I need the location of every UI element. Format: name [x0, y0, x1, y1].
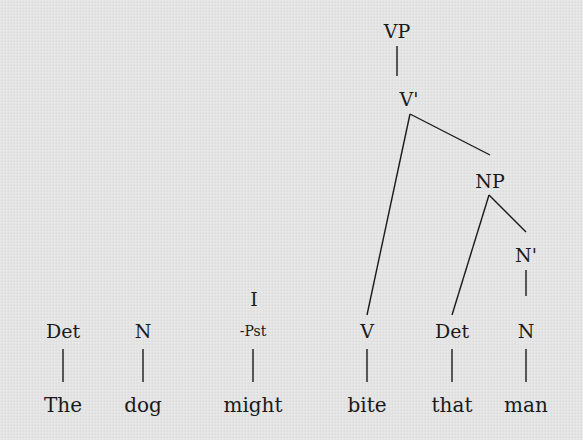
word-the: The: [44, 393, 82, 417]
branch-vbar-np: [410, 114, 490, 155]
branch-vbar-v: [367, 114, 410, 315]
node-np: NP: [475, 170, 505, 192]
word-that: that: [432, 393, 473, 417]
node-det-object: Det: [435, 320, 469, 342]
branch-np-det2: [452, 195, 489, 315]
node-i: I: [250, 288, 258, 310]
node-n-object: N: [518, 320, 535, 342]
word-bite: bite: [347, 393, 386, 417]
word-man: man: [504, 393, 548, 417]
node-n-bar: N': [515, 244, 537, 266]
word-might: might: [223, 393, 282, 417]
node-vp: VP: [383, 20, 411, 42]
word-dog: dog: [124, 393, 162, 417]
node-v-bar: V': [399, 88, 419, 110]
branch-np-nbar: [489, 195, 526, 232]
node-v: V: [359, 320, 374, 342]
node-n-subject: N: [135, 320, 152, 342]
node-i-feature: -Pst: [240, 323, 267, 339]
node-det-subject: Det: [46, 320, 80, 342]
syntax-tree: VP V' NP N' I -Pst Det N V Det N The dog…: [0, 0, 583, 440]
